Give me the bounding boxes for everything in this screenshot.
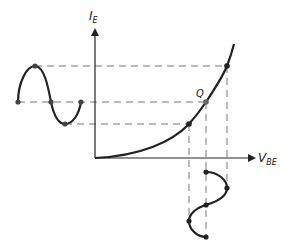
ie-waveform	[18, 66, 81, 124]
q-point-label: Q	[196, 88, 204, 99]
x-axis-label: VBE	[258, 151, 278, 167]
curve-point-low	[186, 121, 192, 127]
ie-vbe-diagram: IE VBE Q	[0, 0, 285, 251]
curve-point-high	[224, 63, 230, 69]
y-axis-label: IE	[89, 9, 99, 25]
characteristic-curve	[95, 44, 234, 158]
q-point	[203, 99, 209, 105]
